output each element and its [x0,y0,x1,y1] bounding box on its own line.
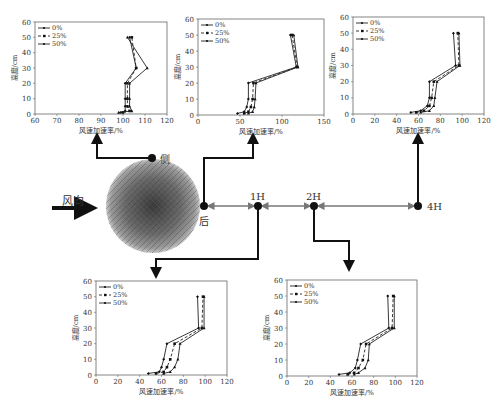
y-tick-label: 10 [274,357,283,365]
series-line [119,37,148,112]
series-line [248,35,298,113]
series-line [244,35,297,113]
legend-label: 50% [304,298,318,306]
x-tick-label: 40 [326,379,335,387]
wind-direction-label: 风向 [62,192,84,208]
y-tick-label: 40 [83,309,92,317]
y-tick-label: 30 [22,65,31,73]
x-tick-label: 60 [157,378,166,386]
y-tick-label: 40 [185,48,194,56]
x-tick-label: 80 [369,379,378,387]
y-tick-label: 10 [340,94,349,102]
y-tick-label: 20 [185,80,194,88]
legend-label: 25% [52,32,66,40]
x-tick-label: 100 [116,117,129,125]
shrub-image [106,159,200,253]
x-tick-label: 150 [317,118,330,126]
x-tick-label: 100 [455,117,468,125]
legend-label: 0% [215,21,225,29]
x-tick-label: 40 [392,117,401,125]
x-tick-label: 110 [138,117,151,125]
legend-label: 50% [215,37,229,45]
y-tick-label: 40 [22,49,31,57]
y-tick-label: 30 [185,64,194,72]
x-tick-label: 20 [113,378,122,386]
node-4H [414,202,422,210]
chart-back: 0501001500102030405060风速加速率/%高度/cm0%25%5… [173,16,331,137]
x-tick-label: 100 [389,379,402,387]
node-1H [254,202,262,210]
y-tick-label: 50 [274,293,283,301]
x-axis-label: 风速加速率/% [79,126,123,135]
y-tick-label: 10 [22,95,31,103]
node-back [200,202,208,210]
y-tick-label: 20 [22,80,31,88]
legend-label: 0% [113,283,123,291]
y-tick-label: 60 [274,277,283,285]
y-tick-label: 50 [185,32,194,40]
x-tick-label: 50 [236,118,245,126]
x-tick-label: 100 [275,118,288,126]
x-tick-label: 100 [198,378,211,386]
x-tick-label: 20 [304,379,313,387]
x-tick-label: 60 [31,117,40,125]
chart-2H: 0204060801001200102030405060风速加速率/%高度/cm… [262,277,424,398]
legend-label: 0% [304,282,314,290]
x-tick-label: 0 [196,118,200,126]
y-tick-label: 20 [340,78,349,86]
legend-label: 50% [52,40,66,48]
x-axis-label: 风速加速率/% [239,127,283,136]
legend-label: 25% [113,291,127,299]
y-tick-label: 20 [274,341,283,349]
y-tick-label: 0 [27,111,31,119]
series-line [121,37,136,112]
x-axis-label: 风速加速率/% [139,387,183,396]
y-tick-label: 30 [83,325,92,333]
x-tick-label: 0 [351,117,355,125]
legend-label: 25% [215,29,229,37]
node-1H-label: 1H [250,191,265,202]
node-side [148,154,156,162]
y-tick-label: 60 [185,16,194,24]
y-tick-label: 60 [83,278,92,286]
x-tick-label: 0 [94,378,98,386]
series-line [339,296,389,374]
series-line [237,35,296,113]
node-2H-label: 2H [306,191,321,202]
legend-label: 50% [370,35,384,43]
x-tick-label: 80 [75,117,84,125]
y-tick-label: 30 [274,325,283,333]
y-tick-label: 20 [83,340,92,348]
x-tick-label: 0 [285,379,289,387]
y-tick-label: 10 [185,96,194,104]
chart-side: 607080901001101200102030405060风速加速率/%高度/… [10,19,174,136]
x-axis-label: 风速加速率/% [330,388,374,397]
x-tick-label: 120 [477,117,490,125]
y-tick-label: 0 [190,112,194,120]
y-tick-label: 40 [274,309,283,317]
x-tick-label: 40 [135,378,144,386]
node-back-label: 后 [199,213,209,228]
x-tick-label: 20 [370,117,379,125]
legend-label: 25% [304,290,318,298]
y-tick-label: 50 [83,293,92,301]
y-axis-label: 高度/cm [328,52,337,79]
legend-label: 50% [113,299,127,307]
y-tick-label: 50 [22,34,31,42]
legend-label: 25% [370,27,384,35]
y-tick-label: 0 [345,111,349,119]
y-axis-label: 高度/cm [173,53,182,80]
y-axis-label: 高度/cm [71,314,80,341]
y-tick-label: 30 [340,62,349,70]
x-axis-label: 风速加速率/% [396,126,440,135]
series-line [148,297,198,374]
x-tick-label: 90 [97,117,106,125]
series-line [348,296,394,374]
x-tick-label: 60 [348,379,357,387]
y-tick-label: 0 [279,373,283,381]
x-tick-label: 120 [220,378,233,386]
x-tick-label: 80 [179,378,188,386]
node-4H-label: 4H [427,201,442,212]
y-tick-label: 60 [340,14,349,22]
y-tick-label: 0 [88,372,92,380]
